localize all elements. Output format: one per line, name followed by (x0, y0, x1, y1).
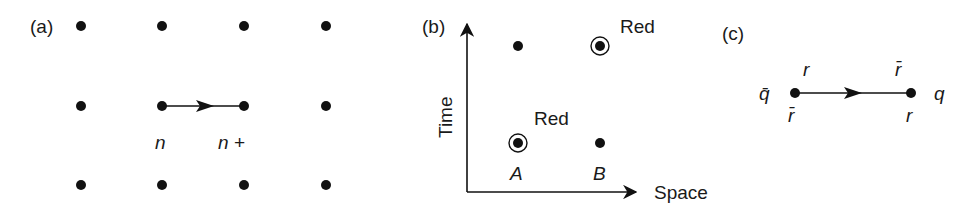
lattice-site (76, 21, 86, 31)
color-label-left-bottom: r̄ (788, 105, 795, 126)
panel-b-label: (b) (422, 16, 445, 37)
event-point-red (513, 138, 523, 148)
event-point (513, 41, 523, 51)
quark-vertex (906, 88, 916, 98)
red-annotation-bottom: Red (534, 108, 569, 129)
event-point (595, 138, 605, 148)
node-label-n-plus: n + (218, 132, 245, 153)
lattice-site (321, 101, 331, 111)
site-label-a: A (509, 163, 523, 184)
color-label-right-top: r̄ (895, 59, 902, 80)
red-annotation-top: Red (620, 16, 655, 37)
lattice-site (321, 180, 331, 190)
antiquark-label: q̄ (759, 83, 770, 104)
lattice-site (157, 180, 167, 190)
panel-c-label: (c) (722, 23, 744, 44)
event-point-red (595, 41, 605, 51)
lattice-site (157, 21, 167, 31)
lattice-site (239, 180, 249, 190)
site-label-b: B (593, 163, 606, 184)
panel-a: (a) n n + (30, 16, 331, 190)
lattice-site (239, 21, 249, 31)
panel-a-label: (a) (30, 16, 53, 37)
lattice-site (321, 21, 331, 31)
panel-c: (c) q̄ q r r̄ r̄ r (722, 23, 945, 126)
time-axis-label: Time (435, 96, 456, 138)
space-axis-label: Space (654, 182, 708, 203)
quark-label: q (934, 83, 945, 104)
panel-b: (b) Time Space Red Red A B (422, 16, 708, 203)
color-label-left-top: r (803, 59, 810, 80)
antiquark-vertex (790, 88, 800, 98)
lattice-site (76, 180, 86, 190)
color-label-right-bottom: r (906, 105, 913, 126)
lattice-site (76, 101, 86, 111)
node-label-n: n (155, 132, 166, 153)
figure-canvas: (a) n n + (b) Time Space Red (0, 0, 967, 212)
